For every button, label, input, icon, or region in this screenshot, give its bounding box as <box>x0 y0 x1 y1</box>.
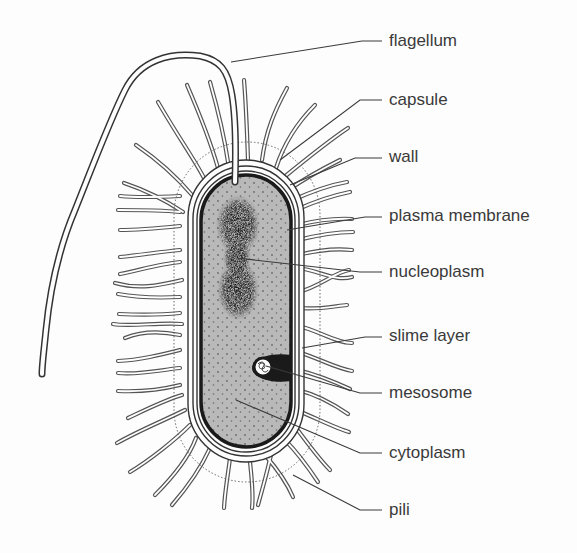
label-pili: pili <box>389 500 410 520</box>
label-capsule: capsule <box>389 90 448 110</box>
leader-line-flagellum <box>231 41 382 62</box>
label-nucleoplasm: nucleoplasm <box>389 262 484 282</box>
label-flagellum: flagellum <box>389 31 457 51</box>
label-cytoplasm: cytoplasm <box>389 443 466 463</box>
label-plasma-membrane: plasma membrane <box>389 206 530 226</box>
label-wall: wall <box>389 147 418 167</box>
label-slime-layer: slime layer <box>389 326 470 346</box>
label-mesosome: mesosome <box>389 383 472 403</box>
bacterial-cell-diagram: flagellumcapsulewallplasma membranenucle… <box>0 0 577 553</box>
leader-line-pili <box>293 475 382 510</box>
diagram-canvas <box>0 0 577 553</box>
